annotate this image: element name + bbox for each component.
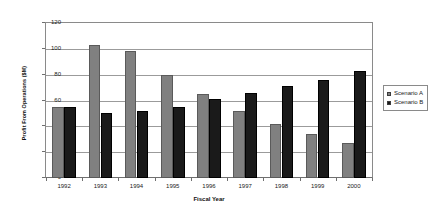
x-axis-tick-label: 1997 [225,183,265,189]
x-axis-tick-mark [46,178,47,181]
bar-1993-scenario-b [101,113,113,178]
bar-group [191,23,227,178]
black-square-swatch [387,101,391,105]
bar-1992-scenario-a [52,107,64,178]
legend-item-label: Scenario A [394,89,423,98]
legend-item[interactable]: Scenario A [387,89,423,98]
bar-1996-scenario-b [209,99,221,178]
x-axis-tick-label: 1993 [80,183,120,189]
x-axis-tick-label: 1996 [189,183,229,189]
bar-1998-scenario-b [282,86,294,178]
y-axis-tick-mark [42,48,45,49]
bar-1999-scenario-b [318,80,330,178]
bar-1994-scenario-a [125,51,137,178]
x-axis-tick-label: 1995 [153,183,193,189]
x-axis-tick-mark [300,178,301,181]
x-axis-tick-mark [227,178,228,181]
bar-chart: Profit From Operations ($M) 020406080100… [0,0,440,224]
bar-1993-scenario-a [89,45,101,178]
bar-group [263,23,299,178]
gray-square-swatch [387,92,391,96]
x-axis-title: Fiscal Year [45,196,373,202]
bar-2000-scenario-b [354,71,366,178]
bar-1998-scenario-a [270,124,282,178]
x-axis-tick-mark [263,178,264,181]
x-axis-tick-label: 1994 [117,183,157,189]
y-axis-tick-mark [42,177,45,178]
x-axis-tick-label: 1998 [261,183,301,189]
bar-1995-scenario-b [173,107,185,178]
x-axis-tick-mark [191,178,192,181]
chart-legend: Scenario AScenario B [383,85,428,111]
bar-group [46,23,82,178]
legend-item-label: Scenario B [394,98,423,107]
x-axis-tick-mark [372,178,373,181]
y-axis-tick-mark [42,151,45,152]
bar-1992-scenario-b [64,107,76,178]
legend-item[interactable]: Scenario B [387,98,423,107]
y-axis-title: Profit From Operations ($M) [21,33,27,173]
bar-2000-scenario-a [342,143,354,178]
bar-1996-scenario-a [197,94,209,178]
bar-1995-scenario-a [161,75,173,178]
y-axis-tick-mark [42,22,45,23]
y-axis-tick-mark [42,74,45,75]
bar-group [118,23,154,178]
bar-group [300,23,336,178]
x-axis-tick-label: 1999 [298,183,338,189]
x-axis-tick-mark [82,178,83,181]
bar-1997-scenario-a [233,111,245,178]
bar-1997-scenario-b [245,93,257,178]
bar-1994-scenario-b [137,111,149,178]
x-axis-tick-mark [155,178,156,181]
bar-group [155,23,191,178]
y-axis-tick-mark [42,125,45,126]
bar-group [82,23,118,178]
bar-1999-scenario-a [306,134,318,178]
bars-container [46,23,372,178]
x-axis-tick-mark [336,178,337,181]
x-axis-tick-label: 1992 [44,183,84,189]
bar-group [336,23,372,178]
x-axis-tick-mark [118,178,119,181]
y-axis-tick-mark [42,100,45,101]
bar-group [227,23,263,178]
x-axis-tick-label: 2000 [334,183,374,189]
